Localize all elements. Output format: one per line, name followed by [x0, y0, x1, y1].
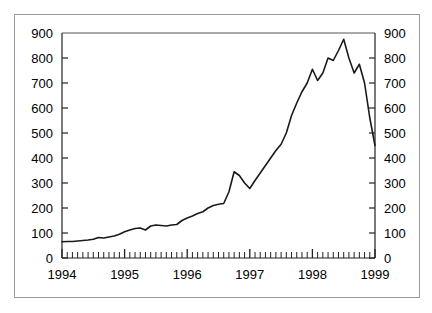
left-tick-label-100: 100	[31, 226, 53, 241]
right-tick-label-100: 100	[384, 226, 406, 241]
left-tick-label-700: 700	[31, 76, 53, 91]
x-tick-label-1994: 1994	[48, 267, 77, 282]
left-tick-label-800: 800	[31, 51, 53, 66]
right-tick-label-0: 0	[384, 251, 391, 266]
right-tick-label-200: 200	[384, 201, 406, 216]
line-chart-svg: 0100200300400500600700800900 01002003004…	[0, 0, 432, 313]
left-tick-label-500: 500	[31, 126, 53, 141]
right-tick-label-700: 700	[384, 76, 406, 91]
right-tick-label-800: 800	[384, 51, 406, 66]
left-tick-label-0: 0	[46, 251, 53, 266]
x-axis-tick-labels: 199419951996199719981999	[48, 267, 390, 282]
plot-area-wrapper: 0100200300400500600700800900 01002003004…	[0, 0, 432, 313]
left-tick-label-600: 600	[31, 101, 53, 116]
left-tick-label-300: 300	[31, 176, 53, 191]
left-tick-label-200: 200	[31, 201, 53, 216]
right-tick-label-500: 500	[384, 126, 406, 141]
right-tick-label-600: 600	[384, 101, 406, 116]
chart-figure: 0100200300400500600700800900 01002003004…	[0, 0, 432, 313]
x-tick-label-1996: 1996	[173, 267, 202, 282]
x-tick-label-1998: 1998	[298, 267, 327, 282]
right-tick-label-900: 900	[384, 26, 406, 41]
right-tick-label-400: 400	[384, 151, 406, 166]
x-tick-label-1997: 1997	[235, 267, 264, 282]
right-y-tick-labels: 0100200300400500600700800900	[384, 26, 406, 266]
plot-background	[62, 33, 375, 258]
left-tick-label-900: 900	[31, 26, 53, 41]
left-y-tick-labels: 0100200300400500600700800900	[31, 26, 53, 266]
x-tick-label-1995: 1995	[110, 267, 139, 282]
x-tick-label-1999: 1999	[361, 267, 390, 282]
left-tick-label-400: 400	[31, 151, 53, 166]
right-tick-label-300: 300	[384, 176, 406, 191]
